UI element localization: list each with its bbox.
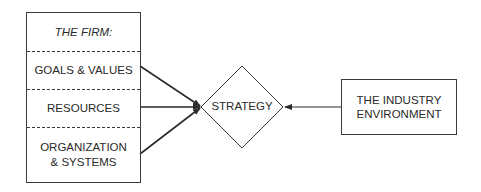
industry-label-line2: ENVIRONMENT	[357, 107, 442, 121]
firm-section-organization-systems: ORGANIZATION & SYSTEMS	[27, 128, 140, 182]
firm-box: THE FIRM: GOALS & VALUES RESOURCES ORGAN…	[26, 12, 141, 183]
arrow-goals-to-strategy	[140, 66, 200, 106]
resources-label: RESOURCES	[47, 101, 120, 116]
firm-section-goals-values: GOALS & VALUES	[27, 52, 140, 89]
systems-label: & SYSTEMS	[40, 155, 127, 170]
organization-label: ORGANIZATION	[40, 140, 127, 155]
industry-label-line1: THE INDUSTRY	[357, 93, 442, 107]
firm-title-label: THE FIRM:	[55, 25, 113, 40]
arrow-organization-to-strategy	[140, 108, 200, 154]
firm-title: THE FIRM:	[27, 13, 140, 51]
goals-values-label: GOALS & VALUES	[34, 63, 132, 78]
strategy-label: STRATEGY	[205, 99, 279, 114]
industry-environment-box: THE INDUSTRY ENVIRONMENT	[341, 79, 457, 135]
firm-section-resources: RESOURCES	[27, 90, 140, 127]
